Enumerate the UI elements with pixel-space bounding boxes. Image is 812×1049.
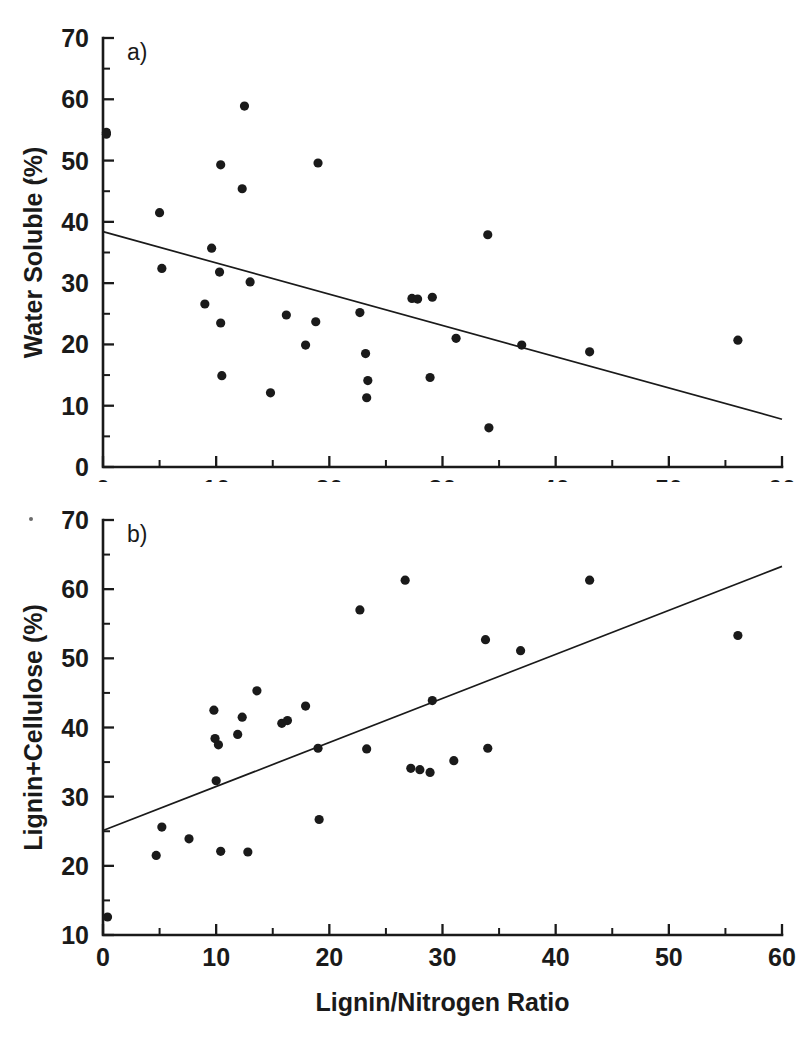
x-tick-label: 30 [429,943,457,971]
y-tick-label: 60 [61,575,89,603]
y-tick-label: 40 [61,208,89,236]
y-tick-label: 0 [75,453,89,481]
axis-lines [103,38,782,467]
x-tick-label: 20 [315,475,343,482]
data-point [200,299,209,308]
data-point [252,686,261,695]
x-tick-label: 60 [768,943,796,971]
data-point [483,230,492,239]
data-point [481,635,490,644]
axis-lines [103,520,782,935]
data-point [155,208,164,217]
figure-root: 0102030405060700102030405060a)Water Solu… [0,0,812,1049]
y-tick-label: 60 [61,85,89,113]
data-point [413,294,422,303]
y-axis-title: Lignin+Cellulose (%) [19,604,47,851]
data-point [401,576,410,585]
data-point [733,336,742,345]
data-point [246,277,255,286]
data-point [238,184,247,193]
data-point [157,264,166,273]
y-tick-label: 20 [61,330,89,358]
data-point [209,706,218,715]
data-point [216,160,225,169]
x-tick-label: 30 [429,475,457,482]
panel-a-chart: 0102030405060700102030405060a)Water Solu… [0,0,812,482]
data-point [428,696,437,705]
data-point [425,373,434,382]
y-tick-label: 20 [61,852,89,880]
data-point [184,834,193,843]
data-point [484,423,493,432]
regression-line [103,566,782,830]
y-tick-label: 50 [61,644,89,672]
data-point [449,756,458,765]
y-tick-label: 50 [61,147,89,175]
x-axis-title: Lignin/Nitrogen Ratio [315,988,569,1016]
data-point [517,340,526,349]
data-point [243,847,252,856]
data-point [315,815,324,824]
data-point [214,740,223,749]
data-point [363,376,372,385]
data-point [361,349,370,358]
data-point [313,744,322,753]
data-point [282,310,291,319]
y-tick-label: 70 [61,24,89,52]
data-point [233,730,242,739]
x-tick-label: 0 [96,475,110,482]
x-tick-label: 0 [96,943,110,971]
data-point [585,576,594,585]
data-point [216,318,225,327]
data-point [157,823,166,832]
data-point [362,744,371,753]
data-point [216,847,225,856]
data-point [102,130,111,139]
data-point [283,716,292,725]
data-point [238,713,247,722]
data-point [362,393,371,402]
data-point [406,764,415,773]
data-point [355,308,364,317]
y-tick-label: 30 [61,269,89,297]
x-tick-label: 60 [768,475,796,482]
y-tick-label: 40 [61,714,89,742]
data-point [428,293,437,302]
data-point [266,388,275,397]
data-point [207,244,216,253]
y-tick-label: 70 [61,506,89,534]
y-tick-label: 10 [61,392,89,420]
x-tick-label: 40 [542,943,570,971]
data-point [733,631,742,640]
panel-label: b) [127,521,147,547]
data-point [451,334,460,343]
data-point [301,701,310,710]
data-point [217,371,226,380]
panel-b-chart: 102030405060700102030405060b)Lignin+Cell… [0,482,812,1049]
x-tick-label: 50 [655,475,683,482]
x-tick-label: 40 [542,475,570,482]
x-tick-label: 10 [202,475,230,482]
data-point [152,851,161,860]
data-point [301,340,310,349]
data-point [215,268,224,277]
data-point [103,912,112,921]
x-tick-label: 20 [315,943,343,971]
data-point [516,646,525,655]
regression-line [103,232,782,420]
panel-label: a) [127,39,147,65]
data-point [415,765,424,774]
data-point [212,776,221,785]
y-tick-label: 10 [61,921,89,949]
data-point [313,158,322,167]
data-point [425,768,434,777]
data-point [483,744,492,753]
data-point [355,605,364,614]
x-tick-label: 10 [202,943,230,971]
y-tick-label: 30 [61,783,89,811]
data-point [585,347,594,356]
data-point [240,101,249,110]
x-tick-label: 50 [655,943,683,971]
y-axis-title: Water Soluble (%) [19,147,47,359]
data-point [311,317,320,326]
